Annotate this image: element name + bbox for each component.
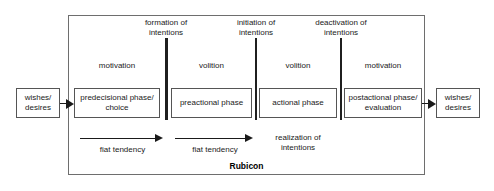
phase-box-postactional-line1: postactional phase/ (349, 93, 418, 102)
transition-label-deactivation-of-intentions: deactivation of intentions (286, 18, 396, 38)
phase-box-preactional-line1: preactional phase (180, 98, 243, 108)
realization-line1: realization of (275, 133, 320, 142)
phase-box-postactional-line2: evaluation (365, 103, 401, 112)
wishes-desires-input-box: wishes/ desires (16, 88, 60, 118)
wishes-desires-output-box: wishes/ desires (436, 88, 480, 118)
phase-box-predecisional-line2: choice (105, 103, 128, 112)
fiat-tendency-label-1: fiat tendency (80, 145, 165, 155)
transition-initiation-line1: initiation of (237, 18, 275, 27)
phase-box-actional-line1: actional phase (272, 98, 324, 108)
realization-line2: intentions (281, 143, 315, 152)
wishes-desires-input-line1: wishes/ (25, 93, 52, 102)
fiat-tendency-label-2: fiat tendency (175, 145, 255, 155)
arrow-head-icon (245, 134, 253, 142)
rubicon-model-diagram: wishes/ desires predecisional phase/ cho… (0, 0, 494, 191)
arrow-head-icon (155, 134, 163, 142)
mode-label-volition-1: volition (171, 61, 252, 71)
wishes-desires-output-line1: wishes/ (445, 93, 472, 102)
phase-box-predecisional: predecisional phase/ choice (74, 88, 160, 118)
phase-box-predecisional-line1: predecisional phase/ (80, 93, 153, 102)
divider-initiation-line (255, 38, 257, 120)
mode-label-volition-2: volition (259, 61, 337, 71)
transition-formation-line1: formation of (145, 18, 187, 27)
transition-formation-line2: intentions (149, 28, 183, 37)
wishes-desires-output-line2: desires (445, 103, 471, 112)
realization-of-intentions-label: realization of intentions (259, 133, 337, 153)
phase-box-actional: actional phase (259, 88, 337, 118)
phase-box-preactional: preactional phase (171, 88, 252, 118)
rubicon-caption: Rubicon (68, 161, 425, 171)
transition-deactivation-line2: intentions (324, 28, 358, 37)
wishes-desires-input-line2: desires (25, 103, 51, 112)
divider-deactivation-line (340, 38, 342, 120)
mode-label-motivation-1: motivation (74, 61, 160, 71)
transition-initiation-line2: intentions (239, 28, 273, 37)
transition-deactivation-line1: deactivation of (315, 18, 367, 27)
divider-rubicon-line (165, 38, 168, 120)
mode-label-motivation-2: motivation (344, 61, 422, 71)
phase-box-postactional: postactional phase/ evaluation (344, 88, 422, 118)
